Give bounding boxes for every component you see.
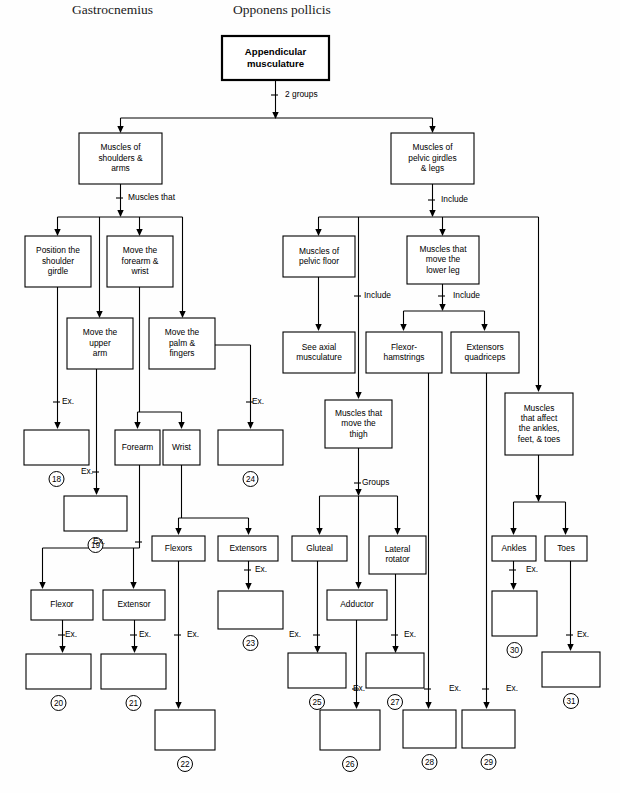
box-label-line: Extensors — [229, 543, 266, 553]
flow-box-b27[interactable]: 27 — [366, 653, 424, 710]
box-label-line: pelvic girdles — [408, 153, 456, 163]
blank-number-label: 20 — [54, 699, 64, 708]
flow-box-b20[interactable]: 20 — [26, 654, 91, 711]
box-label-line: wrist — [130, 266, 149, 276]
flow-box-extensors[interactable]: Extensors — [218, 536, 278, 561]
box-label-line: Ankles — [501, 543, 526, 553]
flow-box-b23[interactable]: 23 — [218, 591, 283, 651]
edge-label-ex-25: Ex. — [289, 629, 301, 639]
flow-box-b28[interactable]: 28 — [403, 710, 456, 770]
flow-box-b22[interactable]: 22 — [155, 710, 215, 772]
blank-number-label: 26 — [345, 760, 355, 769]
edge-label-ex-extensor: Ex. — [139, 629, 151, 639]
edge-label-ex-24: Ex. — [252, 396, 264, 406]
box-outline[interactable] — [26, 654, 91, 689]
box-outline[interactable] — [542, 652, 600, 687]
box-outline[interactable] — [320, 710, 380, 750]
flow-box-b29[interactable]: 29 — [462, 710, 515, 770]
box-label-line: Muscles of — [299, 246, 340, 256]
blank-number-label: 31 — [566, 697, 576, 706]
flow-box-b21[interactable]: 21 — [101, 654, 166, 711]
flow-box-lateralrot[interactable]: Lateralrotator — [369, 536, 426, 574]
box-label-line: thigh — [349, 429, 368, 439]
box-outline[interactable] — [101, 654, 166, 689]
box-label-line: shoulders & — [98, 153, 143, 163]
box-label-line: rotator — [385, 554, 409, 564]
flow-box-wrist[interactable]: Wrist — [163, 430, 200, 465]
edge-label-ex-26: Ex. — [353, 683, 365, 693]
flow-box-seeaxial[interactable]: See axialmusculature — [283, 332, 355, 373]
flow-box-pelvicfloor[interactable]: Muscles ofpelvic floor — [283, 236, 355, 277]
box-label-line: Gluteal — [306, 543, 333, 553]
box-outline[interactable] — [288, 653, 346, 688]
box-outline[interactable] — [24, 430, 89, 465]
flow-box-b26[interactable]: 26 — [320, 710, 380, 772]
flow-box-position[interactable]: Position theshouldergirdle — [25, 236, 91, 287]
edge-label-ex-flexor: Ex. — [65, 629, 77, 639]
box-outline[interactable] — [64, 496, 127, 531]
flow-box-gluteal[interactable]: Gluteal — [292, 536, 347, 561]
flow-box-pelvic[interactable]: Muscles ofpelvic girdles& legs — [391, 133, 474, 184]
box-label-line: See axial — [302, 342, 337, 352]
blank-number-label: 29 — [484, 758, 494, 767]
box-label-line: Position the — [36, 245, 80, 255]
box-label-line: musculature — [247, 58, 304, 69]
edge-label-e-thigh-groups: Groups — [362, 477, 389, 487]
box-outline[interactable] — [403, 710, 456, 748]
blank-number-label: 28 — [425, 758, 435, 767]
flow-box-forearmwrist[interactable]: Move theforearm &wrist — [107, 236, 173, 287]
flow-box-anklesfeet[interactable]: Musclesthat affectthe ankles,feet, & toe… — [505, 393, 573, 455]
flow-box-flexham[interactable]: Flexor-hamstrings — [366, 332, 442, 373]
flow-box-b25[interactable]: 25 — [288, 653, 346, 710]
flow-box-palm[interactable]: Move thepalm &fingers — [149, 318, 215, 369]
edge-label-ex-23: Ex. — [255, 564, 267, 574]
box-label-line: Toes — [557, 543, 575, 553]
flow-box-flexor[interactable]: Flexor — [31, 590, 93, 620]
flowchart-svg: AppendicularmusculatureMuscles ofshoulde… — [0, 0, 620, 793]
box-label-line: arms — [111, 163, 130, 173]
box-label-line: Flexors — [165, 543, 192, 553]
blank-number-label: 22 — [180, 760, 190, 769]
box-label-line: Extensor — [117, 599, 150, 609]
edge-label-e-root-split: 2 groups — [285, 89, 318, 99]
blank-number-label: 18 — [52, 475, 62, 484]
flow-box-shoulders[interactable]: Muscles ofshoulders &arms — [79, 133, 162, 184]
box-label-line: the ankles, — [519, 423, 560, 433]
edge-label-ex-31: Ex. — [577, 629, 589, 639]
edge-label-ex-19: Ex. — [81, 466, 93, 476]
box-label-line: Muscles of — [412, 142, 453, 152]
flow-box-thigh[interactable]: Muscles thatmove thethigh — [325, 400, 392, 448]
flow-box-b31[interactable]: 31 — [542, 652, 600, 709]
box-label-line: hamstrings — [384, 352, 425, 362]
flow-box-extensor[interactable]: Extensor — [103, 590, 165, 620]
box-label-line: quadriceps — [465, 352, 506, 362]
flow-box-ankles[interactable]: Ankles — [492, 536, 536, 561]
box-label-line: Wrist — [172, 442, 192, 452]
box-outline[interactable] — [155, 710, 215, 750]
flow-box-forearm[interactable]: Forearm — [115, 430, 160, 465]
flow-box-root[interactable]: Appendicularmusculature — [222, 36, 329, 80]
box-outline[interactable] — [462, 710, 515, 748]
box-outline[interactable] — [218, 591, 283, 629]
box-label-line: palm & — [169, 338, 195, 348]
flow-box-extquad[interactable]: Extensorsquadriceps — [451, 332, 519, 373]
flow-box-adductor[interactable]: Adductor — [327, 590, 387, 620]
flow-box-lowerleg[interactable]: Muscles thatmove thelower leg — [407, 236, 479, 284]
box-label-line: Muscles of — [100, 142, 141, 152]
box-outline[interactable] — [492, 591, 537, 636]
flow-box-upperarm[interactable]: Move theupperarm — [67, 318, 133, 369]
flow-box-b18[interactable]: 18 — [24, 430, 89, 487]
flow-box-b30[interactable]: 30 — [492, 591, 537, 658]
flow-box-b24[interactable]: 24 — [218, 430, 283, 487]
edge-label-ex-2021: Ex. — [93, 536, 105, 546]
blank-number-label: 24 — [246, 475, 256, 484]
box-label-line: shoulder — [42, 256, 74, 266]
flow-box-toes[interactable]: Toes — [545, 536, 587, 561]
box-label-line: Extensors — [466, 342, 503, 352]
edge-label-ex-29: Ex. — [506, 683, 518, 693]
flow-box-flexors[interactable]: Flexors — [152, 536, 205, 561]
diagram-canvas: AppendicularmusculatureMuscles ofshoulde… — [0, 0, 620, 793]
box-outline[interactable] — [218, 430, 283, 465]
box-outline[interactable] — [366, 653, 424, 688]
box-label-line: Flexor- — [391, 342, 417, 352]
